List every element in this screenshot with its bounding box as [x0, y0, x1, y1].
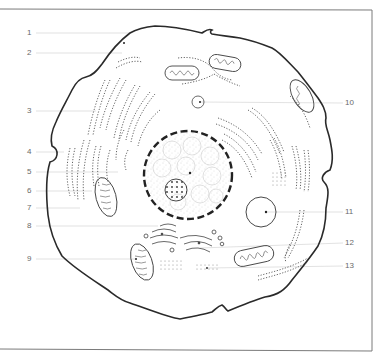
cell-diagram: 1 2 3 4 5 6 7 8 9 10 11 12 13 — [0, 0, 388, 363]
label-8: 8 — [27, 222, 31, 230]
label-12: 12 — [345, 239, 354, 247]
label-13: 13 — [345, 262, 354, 270]
label-7: 7 — [27, 204, 31, 212]
nucleus — [144, 131, 232, 219]
label-6: 6 — [27, 187, 31, 195]
mitochondrion-top-left — [165, 66, 199, 80]
label-9: 9 — [27, 255, 31, 263]
mitochondrion-top-right — [208, 53, 242, 72]
label-4: 4 — [27, 148, 31, 156]
cell-illustration — [0, 0, 388, 363]
mitochondrion-bottom-left — [126, 241, 158, 284]
mitochondrion-left — [91, 175, 121, 219]
label-5: 5 — [27, 168, 31, 176]
mitochondrion-bottom-right — [233, 244, 275, 268]
label-2: 2 — [27, 49, 31, 57]
label-10: 10 — [345, 99, 354, 107]
label-1: 1 — [27, 29, 31, 37]
label-11: 11 — [345, 208, 353, 216]
nucleolus — [165, 179, 187, 201]
label-3: 3 — [27, 107, 31, 115]
